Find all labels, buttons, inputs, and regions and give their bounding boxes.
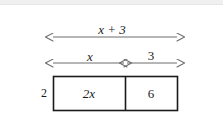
area-rectangle <box>54 77 178 111</box>
diagram-canvas: x + 3 x 3 2 2x 6 <box>0 0 223 136</box>
segment-left-label: x <box>87 50 93 63</box>
cell-label-right: 6 <box>148 87 155 100</box>
total-width-label-text: x + 3 <box>98 22 126 37</box>
total-width-label: x + 3 <box>98 23 126 36</box>
cell-label-left: 2x <box>83 87 95 100</box>
segment-right-label: 3 <box>148 49 155 62</box>
diagram-graphics <box>0 0 223 136</box>
height-label: 2 <box>41 87 47 99</box>
